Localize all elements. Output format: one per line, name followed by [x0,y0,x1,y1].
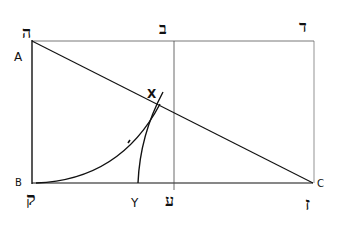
label-x: X [147,87,157,101]
arc-from-b [36,104,160,183]
label-a: A [14,50,23,64]
hebrew-label-c: ז [305,193,310,214]
geometry-diagram: A B C X Y ה ב ד ק ע ז [0,0,341,236]
hebrew-label-bottom-middle: ע [165,191,174,210]
label-b: B [15,177,22,188]
arc-tick [128,140,130,143]
hebrew-label-a: ה [22,23,31,42]
hebrew-label-b: ק [26,188,36,209]
hebrew-label-top-right: ד [299,17,307,36]
diagonal-ac [32,41,313,183]
label-c: C [317,178,324,189]
label-y: Y [130,196,139,210]
hebrew-label-top-middle: ב [159,19,167,38]
